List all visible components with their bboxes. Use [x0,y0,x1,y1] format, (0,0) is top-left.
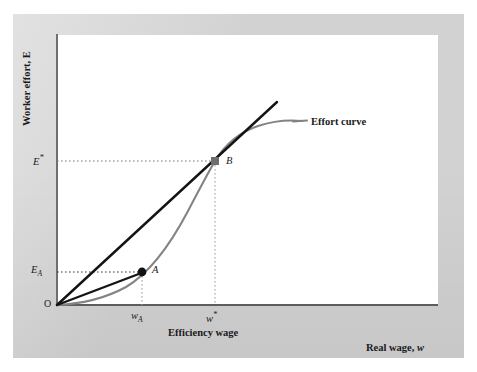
effort-curve-leader-line [293,121,307,122]
x-tick-w-star-sup: * [213,310,217,319]
point-B-label-text: B [226,155,232,166]
effort-curve-label: Effort curve [311,116,366,127]
x-axis-variable-label: Real wage, w [366,342,424,353]
point-A-marker [138,268,147,277]
x-axis-title-text: Efficiency wage [168,327,238,338]
y-tick-e-a-sub: A [37,269,42,278]
ray-a-path [57,272,144,305]
point-B-marker [211,157,219,165]
y-tick-e-star-sup: * [39,153,43,162]
point-B-label: B [226,155,232,166]
x-axis-variable-text: Real wage, [366,342,417,353]
plot-vector-layer [0,0,477,372]
point-A-label: A [152,264,158,275]
y-tick-label-e-a: EA [31,264,42,278]
origin-label-text: O [44,298,51,309]
x-tick-w-a-base: w [131,310,138,321]
tangent-ray-b-path [57,102,277,305]
x-tick-w-star-base: w [206,313,213,324]
efficiency-wage-figure: Worker effort, E Efficiency wage Real wa… [0,0,477,372]
y-axis-title-text: Worker effort, E [21,51,32,126]
x-axis-title: Efficiency wage [168,327,238,338]
origin-label: O [44,298,51,309]
x-tick-w-a-sub: A [138,315,143,324]
point-A-label-text: A [152,264,158,275]
x-tick-label-w-star: w* [206,310,217,324]
x-tick-label-w-a: wA [131,310,143,324]
effort-curve-path [57,121,302,305]
y-axis-title: Worker effort, E [21,29,32,149]
x-axis-variable-symbol: w [417,342,424,353]
y-tick-label-e-star: E* [33,153,44,167]
effort-curve-label-text: Effort curve [311,116,366,127]
